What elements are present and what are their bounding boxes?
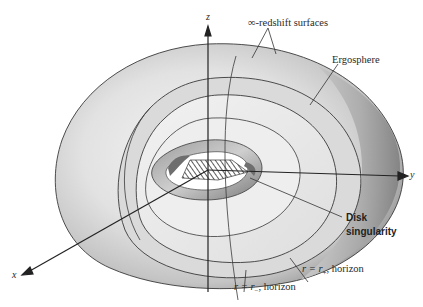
y-axis-label: y [410,170,414,180]
x-axis-label: x [12,270,16,280]
redshift-surfaces-label: ∞-redshift surfaces [248,18,328,29]
x-axis-arrow-icon [22,267,33,275]
inner-horizon-label: r = r−, horizon [234,282,296,295]
outer-horizon-label: r = r+, horizon [302,264,364,277]
ergosphere-label: Ergosphere [332,55,380,66]
outer-horizon-tail: , horizon [326,263,363,274]
z-axis-arrow-icon [205,26,211,36]
inner-horizon-r: r = r [234,281,255,292]
disk-singularity-label-line2: singularity [346,227,397,237]
outer-horizon-r: r = r [302,263,323,274]
disk-singularity-label-line1: Disk [346,213,367,223]
inner-horizon-tail: , horizon [258,281,295,292]
kerr-black-hole-diagram [0,0,423,307]
z-axis-label: z [206,12,210,22]
